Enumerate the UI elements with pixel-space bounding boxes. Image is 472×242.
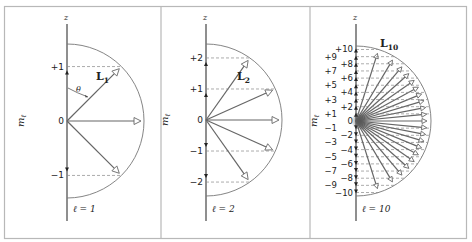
axis-projection-arrow bbox=[354, 147, 358, 151]
m-value-label: +2 bbox=[340, 102, 353, 112]
origin-convergence bbox=[351, 112, 369, 130]
m-value-label: +2 bbox=[190, 53, 203, 63]
m-value-label: +7 bbox=[324, 66, 337, 76]
m-value-label: −4 bbox=[340, 145, 353, 155]
m-value-label: +1 bbox=[51, 62, 64, 72]
m-value-label: 0 bbox=[197, 115, 203, 125]
vector-arrowhead bbox=[409, 80, 415, 85]
m-value-label: +10 bbox=[335, 44, 353, 54]
vector-arrowhead bbox=[419, 137, 425, 142]
vector-arrowhead bbox=[416, 94, 422, 99]
axis-projection-arrow bbox=[354, 132, 358, 136]
m-value-label: −7 bbox=[324, 166, 337, 176]
axis-projection-arrow bbox=[354, 99, 358, 103]
axis-projection-arrow bbox=[354, 168, 358, 172]
z-axis-label: z bbox=[352, 13, 358, 22]
axis-projection-arrow bbox=[354, 70, 358, 74]
vector-arrowhead bbox=[419, 100, 425, 105]
axis-projection-arrow bbox=[354, 63, 358, 67]
vector-arrowhead bbox=[374, 53, 379, 59]
axis-projection-arrow bbox=[354, 154, 358, 158]
m-value-label: +3 bbox=[324, 95, 337, 105]
m-value-label: +6 bbox=[340, 73, 353, 83]
axis-projection-arrow bbox=[354, 56, 358, 60]
m-value-label: +9 bbox=[324, 52, 337, 62]
m-value-label: +4 bbox=[340, 87, 353, 97]
vector-arrowhead bbox=[272, 117, 279, 124]
vector-arrowhead bbox=[409, 157, 415, 162]
m-value-label: +1 bbox=[190, 84, 203, 94]
axis-projection-arrow bbox=[354, 182, 358, 186]
vector-arrowhead bbox=[421, 125, 426, 130]
panel-l-2: zmℓ+2+10−1−2L2ℓ = 2 bbox=[159, 13, 282, 221]
m-value-label: −2 bbox=[190, 177, 203, 187]
angular-momentum-vector bbox=[67, 121, 114, 168]
axis-projection-arrow bbox=[354, 48, 358, 52]
axis-projection-arrow bbox=[354, 175, 358, 179]
m-value-label: +8 bbox=[340, 59, 353, 69]
vector-arrowhead bbox=[420, 106, 425, 111]
axis-projection-arrow bbox=[354, 106, 358, 110]
vector-arrowhead bbox=[265, 144, 273, 150]
axis-projection-arrow bbox=[354, 139, 358, 143]
vector-arrowhead bbox=[374, 183, 379, 189]
vector-arrowhead bbox=[413, 150, 419, 155]
vector-arrowhead bbox=[134, 118, 141, 125]
vector-arrowhead bbox=[388, 60, 393, 66]
svg-text:mℓ: mℓ bbox=[15, 115, 28, 127]
theta-label: θ bbox=[76, 85, 81, 94]
m-value-label: −2 bbox=[340, 130, 353, 140]
m-value-label: −6 bbox=[340, 159, 353, 169]
axis-projection-arrow bbox=[204, 143, 208, 147]
l-value-label: ℓ = 2 bbox=[212, 204, 235, 214]
vector-arrowhead bbox=[265, 90, 273, 96]
axis-projection-arrow bbox=[204, 174, 208, 178]
panel-l-10: zmℓ+10+9+8+7+6+5+4+3+2+10−1−2−3−4−5−6−7−… bbox=[308, 13, 431, 221]
vector-label: L10 bbox=[380, 37, 398, 52]
vector-arrowhead bbox=[416, 144, 422, 149]
axis-projection-arrow bbox=[354, 77, 358, 81]
z-axis-label: z bbox=[202, 13, 208, 22]
axis-projection-arrow bbox=[354, 190, 358, 194]
m-value-label: +5 bbox=[324, 80, 337, 90]
vector-arrowhead bbox=[388, 176, 393, 182]
vector-arrowhead bbox=[413, 87, 419, 92]
m-value-label: −8 bbox=[340, 173, 353, 183]
vector-arrowhead bbox=[241, 60, 248, 68]
m-value-label: −1 bbox=[51, 170, 64, 180]
z-axis-label: z bbox=[63, 13, 69, 22]
vector-arrowhead bbox=[420, 131, 425, 136]
l-value-label: ℓ = 10 bbox=[362, 204, 391, 214]
m-value-label: −10 bbox=[335, 188, 353, 198]
m-value-label: +1 bbox=[324, 109, 337, 119]
m-value-label: −1 bbox=[324, 123, 337, 133]
vector-arrowhead bbox=[241, 172, 248, 180]
angular-momentum-diagram: zmℓ+10−1L1θℓ = 1 zmℓ+2+10−1−2L2ℓ = 2 zmℓ… bbox=[0, 0, 472, 242]
axis-projection-arrow bbox=[65, 71, 69, 75]
axis-projection-arrow bbox=[204, 93, 208, 97]
m-value-label: −3 bbox=[324, 137, 337, 147]
m-l-axis-label: mℓ bbox=[15, 115, 28, 127]
vector-label: L1 bbox=[96, 70, 109, 85]
axis-projection-arrow bbox=[354, 84, 358, 88]
vector-label: L2 bbox=[237, 70, 250, 85]
m-value-label: −5 bbox=[324, 152, 337, 162]
panel-l-1: zmℓ+10−1L1θℓ = 1 bbox=[15, 13, 144, 221]
theta-angle-marker: θ bbox=[68, 85, 88, 98]
vector-arrowhead bbox=[422, 119, 427, 124]
axis-projection-arrow bbox=[354, 161, 358, 165]
axis-projection-arrow bbox=[354, 91, 358, 95]
m-value-label: −1 bbox=[190, 146, 203, 156]
m-value-label: 0 bbox=[58, 116, 64, 126]
l-value-label: ℓ = 1 bbox=[73, 204, 96, 214]
axis-projection-arrow bbox=[65, 167, 69, 171]
vector-arrowhead bbox=[421, 112, 426, 117]
axis-projection-arrow bbox=[204, 62, 208, 66]
